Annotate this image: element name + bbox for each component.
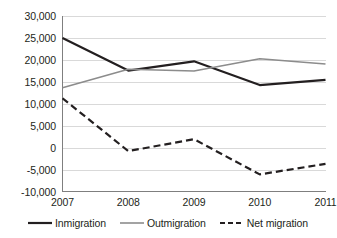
y-tick-label: 15,000 — [0, 77, 56, 88]
legend-item-net-migration[interactable]: Net migration — [220, 217, 308, 229]
y-tick-label: 5,000 — [0, 121, 56, 132]
y-tick-label: 30,000 — [0, 11, 56, 22]
legend-swatch-solid-line-icon — [28, 219, 52, 227]
y-axis-tick-labels: 30,00025,00020,00015,00010,0005,0000-5,0… — [0, 16, 56, 192]
y-tick-label: 0 — [0, 143, 56, 154]
legend-item-inmigration[interactable]: Inmigration — [28, 217, 106, 229]
x-tick-label: 2011 — [314, 196, 336, 208]
y-tick-label: 25,000 — [0, 33, 56, 44]
x-tick-label: 2009 — [183, 196, 206, 208]
x-tick-label: 2010 — [248, 196, 271, 208]
y-tick-label: 20,000 — [0, 55, 56, 66]
legend-swatch-solid-line-icon — [120, 219, 144, 227]
legend-item-outmigration[interactable]: Outmigration — [120, 217, 206, 229]
legend-swatch-dashed-line-icon — [220, 219, 244, 227]
x-tick-label: 2007 — [51, 196, 74, 208]
legend-label: Inmigration — [55, 217, 106, 229]
legend-label: Net migration — [247, 217, 308, 229]
y-tick-label: -10,000 — [0, 187, 56, 198]
plot-area — [62, 16, 326, 192]
y-tick-label: 10,000 — [0, 99, 56, 110]
plot-svg — [62, 16, 326, 192]
legend-label: Outmigration — [147, 217, 206, 229]
x-axis-tick-labels: 20072008200920102011 — [62, 196, 326, 212]
y-tick-label: -5,000 — [0, 165, 56, 176]
series-line-net-migration — [63, 98, 326, 174]
chart-legend: InmigrationOutmigrationNet migration — [0, 213, 336, 233]
x-tick-label: 2008 — [117, 196, 140, 208]
